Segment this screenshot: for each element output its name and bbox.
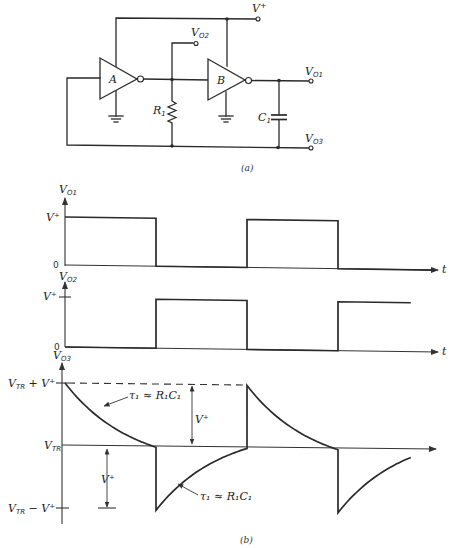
- vo3-waveform-panel: VO3 VTR + V⁺ VTR VTR − V⁺ V⁺ V⁺ τ₁ ≈ R₁C…: [8, 349, 436, 524]
- vo2-axis-label: VO2: [59, 270, 77, 284]
- tau-upper-label: τ₁ ≈ R₁C₁: [129, 389, 181, 402]
- tau-upper-leader: [104, 397, 128, 406]
- vo1-t-label: t: [442, 263, 447, 276]
- gate-b-label: B: [216, 74, 225, 87]
- vo3-mid-level-label: VTR: [44, 439, 61, 453]
- label-vo1: VO1: [305, 65, 323, 79]
- label-vo3: VO3: [305, 132, 323, 146]
- vo3-t-axis: [62, 445, 436, 449]
- tau-lower-label: τ₁ ≈ R₁C₁: [200, 490, 252, 503]
- vo3-bottom-level-label: VTR − V⁺: [8, 502, 55, 516]
- vo2-waveform-panel: VO2 V⁺ 0 t: [43, 270, 447, 358]
- terminal-vplus[interactable]: [256, 17, 260, 21]
- upper-amplitude-label: V⁺: [195, 413, 209, 426]
- vo3-top-dashed-level: [68, 383, 246, 385]
- wire-a-to-b: [144, 79, 208, 80]
- ground-icon: [219, 116, 233, 122]
- vo3-axis-label: VO3: [53, 349, 71, 363]
- vo2-high-tick-label: V⁺: [43, 290, 57, 303]
- inverter-gate-a: [100, 58, 137, 99]
- tau-lower-leader: [178, 484, 198, 495]
- vo2-trace: [65, 299, 411, 351]
- capacitor-c1: [271, 81, 287, 147]
- junction-c1-bottom: [276, 146, 280, 150]
- resistor-r1: [168, 80, 176, 146]
- caption-b: (b): [240, 535, 253, 545]
- vo1-high-tick-label: V⁺: [46, 211, 60, 224]
- gate-a-label: A: [108, 73, 117, 86]
- vo1-zero-label: 0: [53, 260, 59, 270]
- ground-icon: [109, 116, 123, 122]
- vo1-waveform-panel: VO1 V⁺ 0 t: [46, 183, 447, 276]
- vplus-rail: [116, 18, 256, 66]
- caption-a: (a): [241, 163, 254, 173]
- vo2-t-label: t: [442, 345, 447, 358]
- label-c1: C1: [258, 111, 271, 125]
- label-r1: R1: [152, 104, 166, 118]
- figure-canvas: V+ A VO2 R1 B: [0, 0, 451, 548]
- label-vo2: VO2: [191, 26, 209, 40]
- vo3-top-level-label: VTR + V⁺: [8, 377, 55, 391]
- vo1-trace: [65, 217, 434, 270]
- vo1-axis-label: VO1: [59, 183, 77, 197]
- label-vplus: V+: [252, 1, 267, 15]
- gate-b-output-bubble: [246, 78, 252, 84]
- terminal-vo2[interactable]: [194, 42, 198, 46]
- terminal-vo1[interactable]: [309, 79, 313, 83]
- lower-amplitude-label: V⁺: [101, 473, 115, 486]
- terminal-vo3[interactable]: [309, 146, 313, 150]
- gate-a-output-bubble: [138, 76, 144, 82]
- vo2-tap-wire: [172, 43, 193, 79]
- junction-r1-bottom: [170, 144, 174, 148]
- circuit-schematic: V+ A VO2 R1 B: [67, 1, 323, 173]
